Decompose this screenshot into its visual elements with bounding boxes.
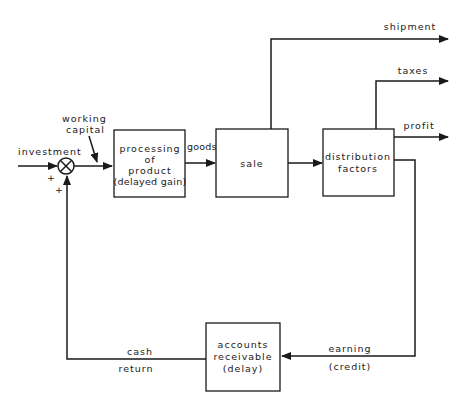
accounts-label-2: receivable	[213, 351, 272, 362]
processing-label-1: processing	[119, 143, 180, 154]
cash-return-arrow	[67, 176, 206, 359]
shipment-label: shipment	[384, 21, 437, 32]
sale-label: sale	[240, 158, 263, 169]
shipment-arrow	[271, 39, 448, 129]
processing-label-2: of	[144, 154, 155, 165]
processing-label-4: (delayed gain)	[114, 176, 187, 187]
investment-label: investment	[18, 146, 82, 157]
cash-label: cash	[127, 346, 153, 357]
goods-label: goods	[187, 141, 217, 152]
working-capital-pointer	[89, 136, 97, 162]
plus-sign-bottom: +	[55, 184, 64, 195]
credit-label: (credit)	[329, 361, 372, 372]
distribution-label-1: distribution	[325, 151, 391, 162]
return-label: return	[118, 363, 153, 374]
accounts-label-3: (delay)	[223, 363, 263, 374]
working-capital-label-2: capital	[66, 124, 105, 135]
summing-junction-icon	[58, 158, 74, 174]
working-capital-label-1: working	[62, 113, 107, 124]
profit-label: profit	[403, 120, 434, 131]
earning-label: earning	[328, 343, 371, 354]
taxes-label: taxes	[398, 65, 429, 76]
distribution-label-2: factors	[338, 163, 378, 174]
accounts-label-1: accounts	[218, 339, 269, 350]
plus-sign-top: +	[47, 172, 56, 183]
block-diagram: investment + + working capital processin…	[0, 0, 452, 414]
processing-label-3: product	[128, 165, 172, 176]
